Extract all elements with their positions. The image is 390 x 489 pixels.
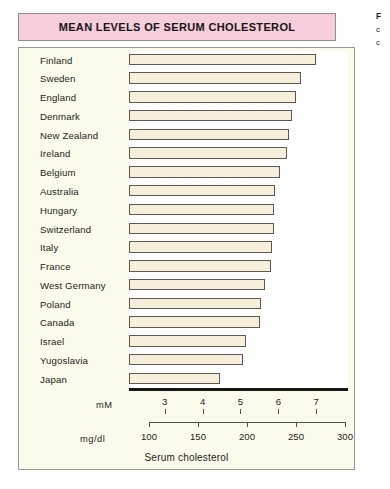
table-row: England [18,89,355,107]
bar-label-canada: Canada [40,314,75,332]
bar-australia [129,185,275,196]
bar-label-australia: Australia [40,182,79,200]
table-row: Ireland [18,145,355,163]
table-row: Poland [18,295,355,313]
margin-note-line-2: c [376,23,390,36]
bar-label-france: France [40,258,71,276]
chart-caption: Serum cholesterol [18,452,355,463]
table-row: Japan [18,370,355,388]
bar-hungary [129,204,274,215]
bar-yugoslavia [129,354,243,365]
bar-label-sweden: Sweden [40,70,76,88]
bar-canada [129,316,260,327]
tick-mark-mgdl-250 [296,422,297,427]
bar-italy [129,241,272,252]
table-row: Australia [18,182,355,200]
bar-label-italy: Italy [40,239,58,257]
bar-england [129,91,296,102]
tick-mark-mM-5 [240,409,241,414]
tick-label-mM-7: 7 [314,396,319,407]
bar-label-belgium: Belgium [40,164,76,182]
axis-mM: mM 34567 [18,396,355,418]
bar-france [129,260,271,271]
table-row: New Zealand [18,126,355,144]
axis-baseline [129,388,348,391]
bar-label-japan: Japan [40,370,67,388]
axis-mgdl-label: mg/dl [80,434,105,444]
bar-label-denmark: Denmark [40,107,80,125]
axis-end-cap-right [345,422,346,427]
tick-label-mgdl-150: 150 [190,431,206,442]
table-row: Sweden [18,70,355,88]
tick-mark-mM-3 [165,409,166,414]
table-row: Switzerland [18,220,355,238]
axis-mgdl: mg/dl 100150200250300 [18,418,355,440]
table-row: Belgium [18,164,355,182]
bar-label-switzerland: Switzerland [40,220,91,238]
bar-label-yugoslavia: Yugoslavia [40,351,88,369]
tick-label-mM-6: 6 [276,396,281,407]
bar-israel [129,335,246,346]
bar-label-england: England [40,89,76,107]
table-row: Hungary [18,201,355,219]
tick-label-mM-3: 3 [162,396,167,407]
tick-mark-mM-6 [278,409,279,414]
bar-sweden [129,72,301,83]
table-row: Italy [18,239,355,257]
tick-label-mM-5: 5 [238,396,243,407]
bar-label-poland: Poland [40,295,71,313]
table-row: Canada [18,314,355,332]
bar-label-hungary: Hungary [40,201,77,219]
table-row: Yugoslavia [18,351,355,369]
table-row: West Germany [18,276,355,294]
tick-mark-mgdl-200 [247,422,248,427]
table-row: France [18,258,355,276]
bar-label-ireland: Ireland [40,145,70,163]
tick-mark-mgdl-150 [198,422,199,427]
bar-rows: FinlandSwedenEnglandDenmarkNew ZealandIr… [18,51,355,389]
margin-note: F c c [376,10,390,49]
tick-mark-mM-4 [203,409,204,414]
tick-label-mM-4: 4 [200,396,205,407]
bar-poland [129,298,261,309]
tick-mark-mM-7 [316,409,317,414]
bar-switzerland [129,223,274,234]
bar-belgium [129,166,280,177]
table-row: Finland [18,51,355,69]
table-row: Denmark [18,107,355,125]
bar-japan [129,373,220,384]
margin-note-line-1: F [376,10,390,23]
tick-label-mgdl-100: 100 [141,431,157,442]
bar-label-west-germany: West Germany [40,276,106,294]
bar-label-new-zealand: New Zealand [40,126,98,144]
bar-label-israel: Israel [40,333,64,351]
page-title: MEAN LEVELS OF SERUM CHOLESTEROL [59,22,296,33]
chart-title-banner: MEAN LEVELS OF SERUM CHOLESTEROL [18,13,336,41]
margin-note-line-3: c [376,36,390,49]
tick-label-mgdl-200: 200 [239,431,255,442]
bar-west-germany [129,279,265,290]
tick-label-mgdl-300: 300 [337,431,353,442]
bar-finland [129,54,316,65]
table-row: Israel [18,333,355,351]
bar-ireland [129,147,287,158]
tick-label-mgdl-250: 250 [288,431,304,442]
bar-denmark [129,110,292,121]
axis-mM-label: mM [96,400,113,410]
figure-root: MEAN LEVELS OF SERUM CHOLESTEROL Finland… [0,0,390,489]
axis-end-cap-left [149,422,150,427]
bar-label-finland: Finland [40,51,73,69]
bar-new-zealand [129,129,289,140]
